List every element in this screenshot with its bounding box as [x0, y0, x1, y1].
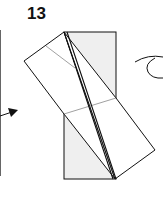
arrow-icon — [8, 108, 18, 117]
origami-diagram — [0, 0, 164, 206]
previous-step-fragment — [0, 30, 18, 176]
turn-over-icon — [135, 56, 163, 62]
turn-over-icon — [147, 58, 163, 78]
